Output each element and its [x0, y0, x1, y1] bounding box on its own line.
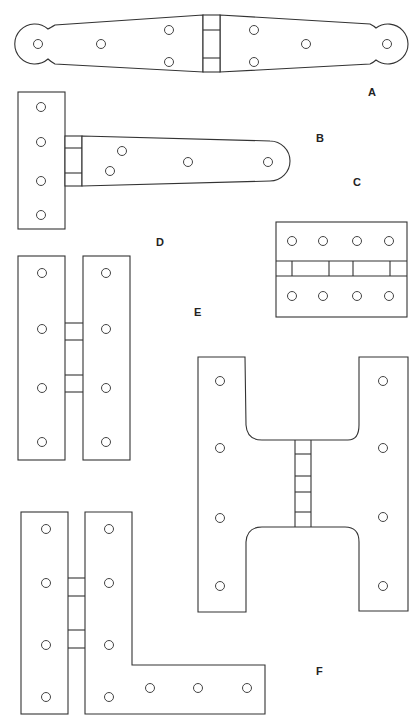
- hinge-c-body: [276, 222, 407, 317]
- hinge-d: [18, 256, 130, 460]
- hinge-d-right-leaf: [83, 256, 130, 460]
- hinge-f-left-leaf: [21, 512, 68, 714]
- label-e: E: [194, 306, 201, 318]
- hinge-a: [15, 15, 408, 72]
- hinge-a-right-leaf: [220, 15, 408, 72]
- hinge-a-left-leaf: [15, 15, 203, 72]
- label-a: A: [368, 86, 376, 98]
- hinge-e-body: [198, 357, 408, 612]
- label-d: D: [156, 236, 164, 248]
- hinge-b: [18, 92, 290, 229]
- label-b: B: [316, 132, 324, 144]
- hinge-a-pin: [203, 15, 220, 72]
- hinge-c: [276, 222, 407, 317]
- hinge-b-plate: [18, 92, 65, 229]
- hinge-diagram: [0, 0, 420, 726]
- label-c: C: [353, 176, 361, 188]
- hinge-d-left-leaf: [18, 256, 65, 460]
- label-f: F: [316, 665, 323, 677]
- hinge-b-knuckle: [65, 136, 82, 186]
- hinge-e: [198, 357, 408, 612]
